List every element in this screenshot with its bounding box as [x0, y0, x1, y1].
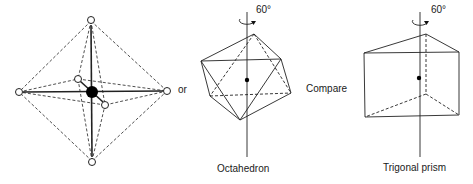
octahedron-polyhedron — [201, 12, 291, 157]
trigonal-prism-polyhedron — [364, 12, 459, 157]
prism-center — [417, 76, 421, 80]
octahedron-caption: Octahedron — [217, 163, 269, 174]
ligand-top — [88, 17, 95, 24]
or-connector-label: or — [178, 84, 187, 95]
diagram-canvas — [0, 0, 473, 184]
ball-stick-octahedral-complex — [16, 17, 171, 166]
ligand-front — [102, 102, 109, 109]
ligand-back — [75, 76, 82, 83]
prism-rotation-label: 60° — [431, 4, 446, 15]
ligand-left — [16, 89, 23, 96]
octahedron-rotation-label: 60° — [256, 4, 271, 15]
octahedron-center — [245, 78, 249, 82]
compare-label: Compare — [306, 83, 347, 94]
central-metal-atom — [86, 86, 98, 98]
trigonal-prism-caption: Trigonal prism — [383, 162, 446, 173]
ligand-bottom — [89, 159, 96, 166]
ligand-right — [164, 88, 171, 95]
